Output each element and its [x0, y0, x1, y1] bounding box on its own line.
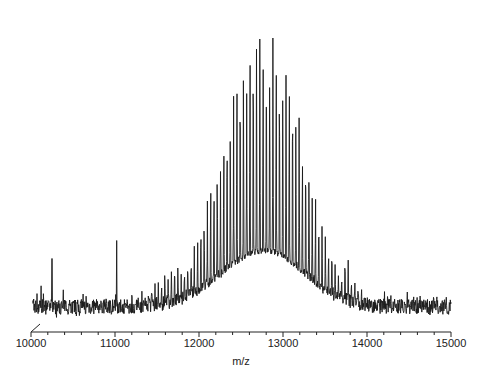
x-tick-label: 13000: [268, 337, 299, 349]
x-tick-label: 10000: [16, 337, 47, 349]
x-tick-label: 11000: [100, 337, 130, 349]
spectrum-plot: [0, 0, 485, 385]
x-tick-label: 12000: [184, 337, 215, 349]
x-tick-label: 15000: [436, 337, 467, 349]
x-axis: [31, 324, 451, 337]
spectrum-trace: [33, 38, 451, 317]
x-tick-label: 14000: [352, 337, 383, 349]
x-axis-title: m/z: [232, 355, 250, 367]
